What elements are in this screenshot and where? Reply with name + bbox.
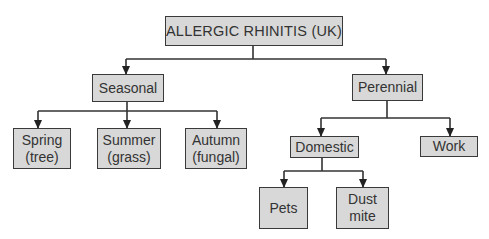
node-domestic: Domestic [290,136,359,158]
node-spring-tree: Spring (tree) [13,128,71,169]
node-summer-grass: Summer (grass) [97,128,161,169]
node-autumn-fungal: Autumn (fungal) [185,128,247,169]
node-work: Work [420,136,478,157]
allergic-rhinitis-tree-diagram: ALLERGIC RHINITIS (UK) Seasonal Perennia… [0,0,489,239]
node-seasonal: Seasonal [92,74,164,102]
node-allergic-rhinitis: ALLERGIC RHINITIS (UK) [165,16,343,46]
node-perennial: Perennial [352,74,423,101]
node-dust-mite: Dust mite [336,187,389,229]
node-pets: Pets [259,187,308,229]
